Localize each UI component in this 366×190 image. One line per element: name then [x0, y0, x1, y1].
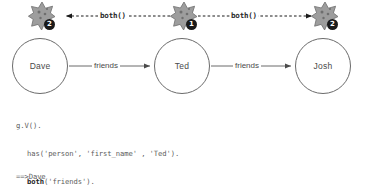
step-badge-ted: 1 [186, 19, 197, 30]
node-ted[interactable]: Ted [154, 38, 210, 94]
node-ted-label: Ted [175, 61, 189, 71]
step-marker-dave: 2 [28, 1, 56, 31]
edge-label-dave-ted: friends [92, 61, 120, 70]
node-josh-label: Josh [314, 61, 333, 71]
diagram-canvas: Dave Ted Josh friends friends both() bot… [0, 0, 366, 190]
node-dave-label: Dave [30, 61, 51, 71]
step-badge-josh: 2 [327, 19, 338, 30]
both-label-left: both() [99, 11, 127, 20]
code-line-3-rest: ('friends'). [44, 177, 95, 186]
console-output: ==>Dave ==>Josh [16, 154, 46, 190]
node-josh[interactable]: Josh [295, 38, 351, 94]
graph-layer: Dave Ted Josh friends friends both() bot… [0, 0, 366, 100]
edge-label-ted-josh: friends [233, 61, 261, 70]
both-label-right: both() [230, 11, 258, 20]
output-line-1: ==>Dave [16, 172, 46, 181]
node-dave[interactable]: Dave [12, 38, 68, 94]
code-line-1: g.V(). [16, 121, 179, 130]
step-marker-josh: 2 [311, 1, 339, 31]
step-badge-dave: 2 [44, 19, 55, 30]
step-marker-ted: 1 [170, 1, 198, 31]
